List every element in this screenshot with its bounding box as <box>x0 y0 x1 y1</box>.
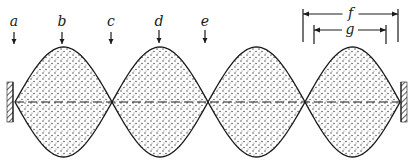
dimension-label-g: g <box>346 22 355 36</box>
position-label-e: e <box>201 14 209 28</box>
position-label-c: c <box>107 14 115 28</box>
position-label-b: b <box>58 14 67 28</box>
down-arrow-icon <box>157 30 162 43</box>
down-arrow-icon <box>60 32 65 44</box>
left-wall-hatch <box>7 82 13 122</box>
down-arrow-icon <box>109 32 114 44</box>
position-label-a: a <box>10 14 18 28</box>
position-arrows <box>12 30 208 44</box>
standing-wave-diagram: abcdefg <box>0 0 413 166</box>
down-arrow-icon <box>203 30 208 43</box>
right-wall-hatch <box>401 82 407 122</box>
position-label-d: d <box>155 14 164 28</box>
dimension-label-f: f <box>348 6 353 20</box>
down-arrow-icon <box>12 32 17 44</box>
